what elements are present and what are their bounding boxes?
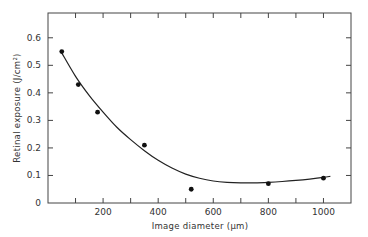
data-point (76, 82, 81, 87)
fitted-curve (62, 53, 331, 183)
chart: 2004006008001000 00.10.20.30.40.50.6 Ima… (0, 0, 368, 237)
x-tick-label: 400 (150, 207, 167, 217)
data-point (59, 49, 64, 54)
y-tick-label: 0.5 (27, 60, 41, 70)
x-tick-labels: 2004006008001000 (94, 207, 335, 217)
x-tick-label: 800 (260, 207, 277, 217)
x-axis-label: Image diameter (μm) (152, 221, 249, 231)
data-point (95, 110, 100, 115)
y-tick-label: 0.4 (27, 88, 42, 98)
y-tick-labels: 00.10.20.30.40.50.6 (27, 33, 42, 208)
data-point (142, 143, 147, 148)
y-tick-label: 0.2 (27, 143, 41, 153)
y-axis-label: Retinal exposure (J/cm²) (12, 53, 22, 162)
y-tick-label: 0.3 (27, 115, 41, 125)
y-tick-label: 0.6 (27, 33, 42, 43)
y-tick-label: 0.1 (27, 170, 41, 180)
data-point (321, 176, 326, 181)
plot-frame (48, 13, 351, 203)
y-tick-label: 0 (35, 198, 41, 208)
x-tick-label: 200 (94, 207, 111, 217)
axis-ticks (48, 13, 351, 203)
x-tick-label: 600 (205, 207, 222, 217)
x-tick-label: 1000 (312, 207, 335, 217)
data-point (189, 187, 194, 192)
data-point (266, 181, 271, 186)
data-points (59, 49, 325, 191)
